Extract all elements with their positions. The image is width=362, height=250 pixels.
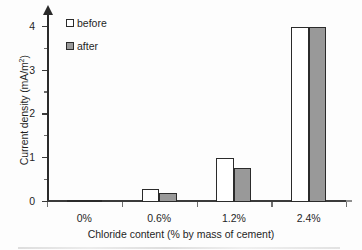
x-axis-title: Chloride content (% by mass of cement) xyxy=(0,228,362,240)
y-minor-tick xyxy=(44,48,47,49)
y-axis-line xyxy=(47,14,49,202)
x-category-label-2.4%: 2.4% xyxy=(297,212,321,224)
y-tick-label-2: 2 xyxy=(29,107,35,119)
x-category-label-0.6%: 0.6% xyxy=(147,212,171,224)
legend-item-before: before xyxy=(66,17,107,29)
y-tick-3: 3 xyxy=(42,70,47,71)
x-category-label-1.2%: 1.2% xyxy=(222,212,246,224)
y-minor-tick xyxy=(44,91,47,92)
y-minor-tick xyxy=(44,135,47,136)
y-minor-tick xyxy=(44,179,47,180)
bar-after-2.4% xyxy=(309,27,327,202)
y-tick-2: 2 xyxy=(42,113,47,114)
legend-swatch-before-icon xyxy=(66,19,74,27)
y-axis-title-superscript: 2 xyxy=(18,59,25,63)
y-axis-arrow-icon xyxy=(43,5,53,15)
bar-before-2.4% xyxy=(291,27,309,202)
legend-item-after: after xyxy=(66,40,107,52)
y-tick-4: 4 xyxy=(42,26,47,27)
y-axis-title-tail: ) xyxy=(18,55,30,58)
y-tick-1: 1 xyxy=(42,157,47,158)
legend: beforeafter xyxy=(66,17,107,63)
caption-sliver xyxy=(18,247,340,249)
bar-before-1.2% xyxy=(216,158,234,202)
x-tick xyxy=(346,202,347,207)
y-tick-label-4: 4 xyxy=(29,20,35,32)
bar-after-0% xyxy=(84,200,102,202)
x-tick xyxy=(122,202,123,207)
y-tick-label-0: 0 xyxy=(29,195,35,207)
legend-swatch-after-icon xyxy=(66,42,74,50)
x-tick xyxy=(271,202,272,207)
legend-label-after: after xyxy=(77,40,98,52)
bar-before-0% xyxy=(67,200,85,202)
x-tick xyxy=(197,202,198,207)
bar-before-0.6% xyxy=(142,189,160,202)
y-tick-label-3: 3 xyxy=(29,64,35,76)
x-tick xyxy=(47,202,48,207)
legend-label-before: before xyxy=(77,17,107,29)
bar-after-1.2% xyxy=(234,168,252,202)
x-category-label-0%: 0% xyxy=(77,212,92,224)
y-tick-label-1: 1 xyxy=(29,151,35,163)
bar-after-0.6% xyxy=(159,193,177,202)
chart-figure: Current density (mA/m2) 01234 0%0.6%1.2%… xyxy=(0,0,362,250)
